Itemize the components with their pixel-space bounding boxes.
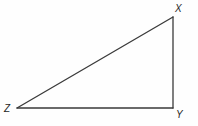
vertex-label-z: Z: [4, 104, 10, 114]
vertex-label-y: Y: [176, 110, 183, 120]
vertex-label-x: X: [175, 4, 182, 14]
triangle-diagram: [0, 0, 198, 126]
edge-hypotenuse-zx: [17, 17, 173, 108]
figure-canvas: X Y Z: [0, 0, 198, 126]
